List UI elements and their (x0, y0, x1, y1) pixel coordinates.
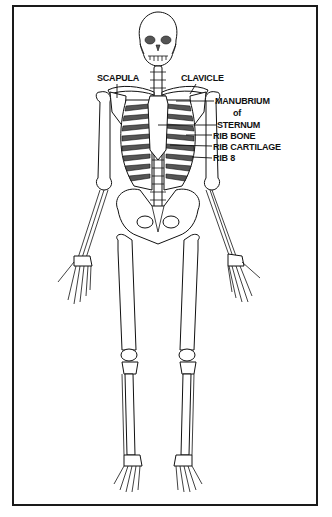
label-manubrium: MANUBRIUM (215, 96, 270, 106)
label-rib-cartilage: RIB CARTILAGE (213, 142, 281, 152)
left-hand (58, 256, 92, 304)
legs (114, 234, 202, 492)
label-of: of (233, 108, 241, 118)
label-scapula: SCAPULA (97, 73, 139, 83)
left-foot (114, 455, 142, 492)
skull (139, 12, 177, 66)
right-hand (228, 254, 260, 302)
label-rib-bone: RIB BONE (213, 131, 255, 141)
skeleton-illustration (0, 0, 332, 517)
label-sternum: STERNUM (217, 120, 260, 130)
label-rib-8: RIB 8 (213, 153, 235, 163)
sternum (148, 96, 168, 160)
right-foot (174, 455, 202, 492)
label-clavicle: CLAVICLE (181, 73, 224, 83)
